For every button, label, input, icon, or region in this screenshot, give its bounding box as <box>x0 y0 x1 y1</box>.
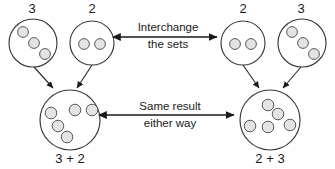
diagram-canvas: 3 2 2 3 <box>0 0 335 169</box>
bottom-right-sum-label: 2 + 3 <box>255 151 284 166</box>
top-left-set-count: 3 <box>28 1 35 16</box>
bottom-right-set-group: 2 + 3 <box>240 90 300 166</box>
dot <box>272 108 284 120</box>
dot <box>40 49 51 60</box>
dot <box>230 39 241 50</box>
dot <box>287 27 298 38</box>
top-mid-right-set-group: 2 <box>221 1 265 65</box>
bottom-left-set-group: 3 + 2 <box>40 90 100 166</box>
bottom-left-sum-label: 3 + 2 <box>55 151 84 166</box>
dot <box>246 39 257 50</box>
top-mid-right-set-boundary <box>221 21 265 65</box>
top-right-set-count: 3 <box>297 1 304 16</box>
interchange-label-line1: Interchange <box>138 21 199 33</box>
interchange-label-line2: the sets <box>148 38 189 50</box>
same-result-arrow-group: Same result either way <box>106 100 234 129</box>
right-flow-arrows <box>243 65 301 88</box>
interchange-arrow-group: Interchange the sets <box>120 21 217 50</box>
dot <box>86 104 98 116</box>
dot <box>284 119 296 131</box>
dot <box>262 99 274 111</box>
commutative-addition-diagram: 3 2 2 3 <box>0 0 335 169</box>
top-mid-right-set-count: 2 <box>239 1 246 16</box>
dot <box>29 38 40 49</box>
top-mid-left-set-boundary <box>70 21 114 65</box>
dot <box>45 107 57 119</box>
flow-arrow-right-a <box>243 65 259 88</box>
left-flow-arrows <box>34 65 92 88</box>
flow-arrow-right-b <box>283 67 301 88</box>
dot <box>309 49 320 60</box>
flow-arrow-left-b <box>77 65 92 88</box>
dot <box>61 131 73 143</box>
dot <box>95 39 106 50</box>
dot <box>18 27 29 38</box>
dot <box>244 120 256 132</box>
dot <box>69 104 81 116</box>
top-right-set-group: 3 <box>278 1 326 67</box>
dot <box>298 38 309 49</box>
top-mid-left-set-group: 2 <box>70 1 114 65</box>
flow-arrow-left-a <box>34 67 53 88</box>
dot <box>52 120 64 132</box>
same-result-label-line2: either way <box>144 117 197 129</box>
top-left-set-group: 3 <box>9 1 57 67</box>
dot <box>262 121 274 133</box>
same-result-label-line1: Same result <box>139 100 201 112</box>
top-mid-left-set-count: 2 <box>88 1 95 16</box>
dot <box>79 39 90 50</box>
